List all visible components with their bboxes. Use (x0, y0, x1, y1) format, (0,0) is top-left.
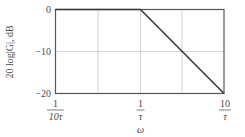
y-tick-minus20: −20 (35, 88, 51, 99)
x-axis-label: ω (137, 124, 144, 135)
bode-magnitude-plot: 0 −10 −20 20 log|G|, dB 1 10τ 1 τ 10 τ ω (0, 0, 245, 137)
y-tick-0: 0 (46, 4, 51, 15)
grid (56, 10, 225, 94)
x-tick-1-over-tau: 1 τ (137, 98, 145, 122)
y-tick-minus10: −10 (35, 46, 51, 57)
x-tick-denominator: 10τ (49, 111, 63, 122)
x-tick-1-over-10tau: 1 10τ (47, 98, 64, 122)
x-tick-numerator: 1 (53, 98, 58, 109)
x-tick-numerator: 10 (220, 98, 230, 109)
x-tick-denominator: τ (139, 111, 143, 122)
y-axis-label: 20 log|G|, dB (4, 25, 15, 79)
x-tick-denominator: τ (223, 111, 227, 122)
x-tick-10-over-tau: 10 τ (219, 98, 231, 122)
x-tick-numerator: 1 (138, 98, 143, 109)
